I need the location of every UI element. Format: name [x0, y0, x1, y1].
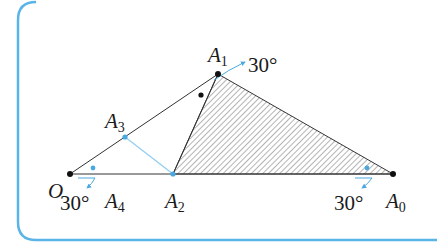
- shaded-triangle: [173, 74, 393, 174]
- angle-mark-O-blue-dot: [91, 166, 96, 171]
- label-A0: A0: [384, 189, 406, 215]
- rotation-arrow-A0-icon: [355, 178, 372, 188]
- label-A1: A1: [206, 43, 228, 69]
- angle-mark-A0-blue-dot: [365, 166, 370, 171]
- point-A1: [215, 71, 221, 77]
- angle-label-A0: 30°: [334, 191, 363, 215]
- point-A0: [390, 171, 396, 177]
- diagram-canvas: O A1 A3 A4 A2 A0 30° 30° 30°: [0, 0, 437, 244]
- point-A3: [122, 134, 127, 139]
- rotation-arrow-O-icon: [78, 178, 95, 188]
- label-A4: A4: [103, 189, 125, 215]
- segment-A3-A2: [125, 137, 173, 174]
- angle-label-O: 30°: [60, 191, 89, 215]
- angle-mark-A1-black-dot: [198, 92, 203, 97]
- label-A3: A3: [103, 109, 125, 135]
- point-O: [67, 171, 73, 177]
- label-A2: A2: [163, 189, 185, 215]
- angle-label-A1: 30°: [248, 53, 277, 77]
- point-A2: [170, 171, 175, 176]
